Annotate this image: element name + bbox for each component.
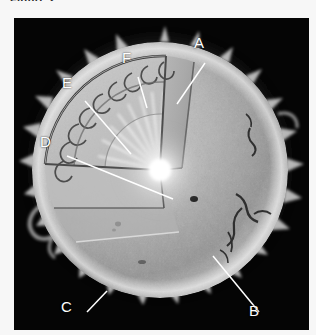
label-B: B <box>249 303 259 318</box>
page-background: Figure 2. <box>0 0 316 335</box>
label-E: E <box>62 75 72 90</box>
solar-core <box>116 126 204 214</box>
label-A: A <box>194 35 204 50</box>
label-F: F <box>122 50 131 65</box>
cut-off-caption: Figure 2. <box>10 0 59 1</box>
label-D: D <box>40 134 51 149</box>
label-C: C <box>61 299 72 314</box>
sun-cutaway-illustration <box>14 18 309 330</box>
sun-cutaway-figure-panel: A B C D E F <box>14 18 309 330</box>
